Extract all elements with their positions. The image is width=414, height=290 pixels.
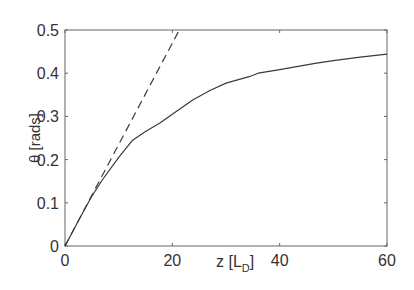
y-tick-label: 0.4 — [37, 65, 59, 82]
x-tick-label: 40 — [271, 252, 289, 269]
y-tick-label: 0 — [50, 238, 59, 255]
x-axis-label-close: ] — [250, 253, 254, 270]
y-axis-label: θ [rads] — [26, 113, 43, 163]
series-group — [65, 30, 387, 246]
y-tick-label: 0.1 — [37, 195, 59, 212]
x-axis-label-sub: D — [242, 262, 250, 274]
x-tick-label: 60 — [378, 252, 396, 269]
y-axis-ticks: 00.10.20.30.40.5 — [37, 22, 387, 255]
x-tick-label: 20 — [163, 252, 181, 269]
plot-frame — [65, 30, 387, 246]
y-tick-label: 0.5 — [37, 22, 59, 39]
x-axis-label: z [LD] — [216, 253, 254, 274]
x-axis-label-main: z [L — [216, 253, 242, 270]
line-chart: 00.10.20.30.40.5 0204060 z [LD] θ [rads] — [0, 0, 414, 290]
x-tick-label: 0 — [61, 252, 70, 269]
series-line-solid — [65, 54, 387, 246]
x-axis-ticks: 0204060 — [61, 30, 396, 269]
